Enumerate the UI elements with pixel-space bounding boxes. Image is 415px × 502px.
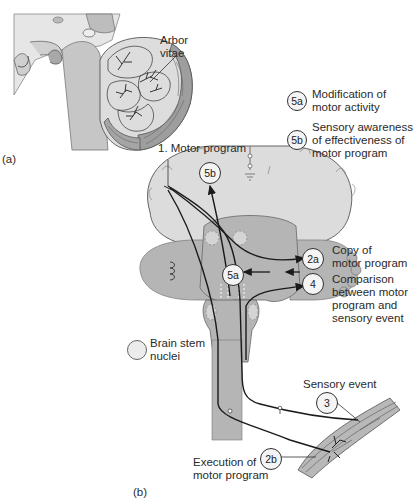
execution-of-motor-program-label: Execution of motor program bbox=[193, 456, 268, 482]
legend-5b-line3: motor program bbox=[312, 147, 413, 160]
brainstem-line1: Brain stem bbox=[150, 337, 205, 350]
copy-line1: Copy of bbox=[332, 244, 407, 257]
legend-5b-line2: of effectiveness of bbox=[312, 134, 413, 147]
brain-stem-nuclei-label: Brain stem nuclei bbox=[150, 337, 205, 363]
copy-of-motor-program-label: Copy of motor program bbox=[332, 244, 407, 270]
execution-line1: Execution of bbox=[193, 456, 268, 469]
panel-b-label: (b) bbox=[133, 486, 147, 499]
legend-5b-line1: Sensory awareness bbox=[312, 121, 413, 134]
execution-line2: motor program bbox=[193, 469, 268, 482]
legend-5a-line2: motor activity bbox=[312, 101, 386, 114]
comparison-line1: Comparison bbox=[332, 273, 408, 286]
arbor-vitae-label: Arbor vitae bbox=[160, 34, 188, 60]
comparison-label: Comparison between motor program and sen… bbox=[332, 273, 408, 325]
legend-badge-5b: 5b bbox=[287, 130, 307, 150]
arbor-vitae-line1: Arbor bbox=[160, 34, 188, 47]
legend-5b-text: Sensory awareness of effectiveness of mo… bbox=[312, 121, 413, 160]
panel-a-label: (a) bbox=[2, 153, 16, 166]
comparison-line4: sensory event bbox=[332, 312, 408, 325]
badge-2a: 2a bbox=[302, 248, 324, 270]
badge-4: 4 bbox=[302, 273, 324, 295]
brain-stem-nuclei-swatch bbox=[127, 340, 147, 360]
badge-5b: 5b bbox=[199, 162, 221, 184]
legend-5a-text: Modification of motor activity bbox=[312, 88, 386, 114]
comparison-line3: program and bbox=[332, 299, 408, 312]
motor-program-label: 1. Motor program bbox=[158, 142, 246, 155]
arbor-vitae-line2: vitae bbox=[160, 47, 188, 60]
comparison-line2: between motor bbox=[332, 286, 408, 299]
sensory-event-label: Sensory event bbox=[303, 378, 377, 391]
badge-5a: 5a bbox=[222, 264, 244, 286]
copy-line2: motor program bbox=[332, 257, 407, 270]
brainstem-line2: nuclei bbox=[150, 350, 205, 363]
legend-5a-line1: Modification of bbox=[312, 88, 386, 101]
legend-badge-5a: 5a bbox=[287, 91, 307, 111]
badge-3: 3 bbox=[316, 392, 338, 414]
